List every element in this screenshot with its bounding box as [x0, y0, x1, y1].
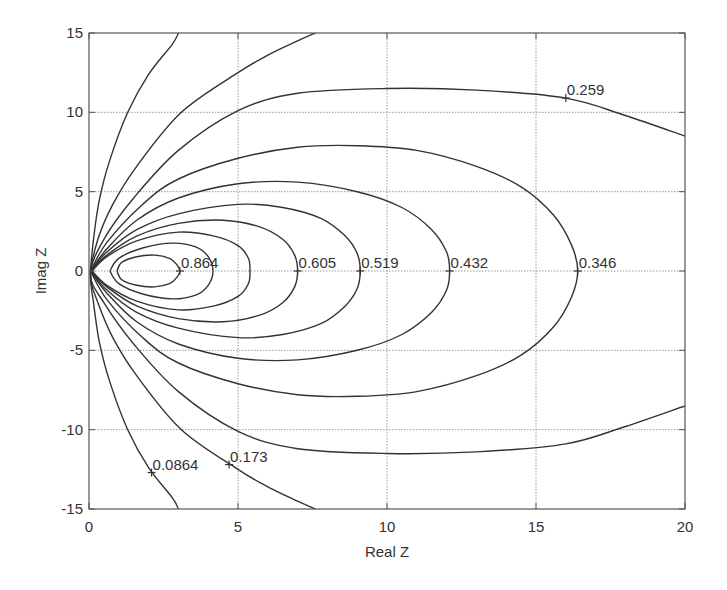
- x-tick-label: 0: [85, 518, 93, 535]
- contour-label: 0.605: [299, 254, 337, 271]
- x-axis-label: Real Z: [365, 543, 409, 560]
- contour-label: 0.432: [451, 254, 489, 271]
- y-tick-label: 0: [75, 262, 83, 279]
- y-tick-label: -5: [70, 341, 83, 358]
- y-axis-label: Imag Z: [32, 248, 49, 295]
- x-tick-label: 5: [234, 518, 242, 535]
- contour-label: 0.173: [230, 448, 268, 465]
- y-tick-label: -15: [61, 500, 83, 517]
- y-tick-label: -10: [61, 421, 83, 438]
- contour-label: 0.864: [181, 254, 219, 271]
- y-tick-label: 10: [66, 103, 83, 120]
- x-tick-label: 10: [379, 518, 396, 535]
- x-tick-label: 15: [528, 518, 545, 535]
- contour-label: 0.259: [567, 81, 605, 98]
- contour-label: 0.519: [361, 254, 399, 271]
- y-tick-label: 5: [75, 183, 83, 200]
- x-tick-label: 20: [677, 518, 694, 535]
- contour-chart: 0.08640.1730.2590.3460.4320.5190.6050.86…: [0, 0, 727, 590]
- contour-label: 0.346: [579, 254, 617, 271]
- y-tick-label: 15: [66, 24, 83, 41]
- contour-label: 0.0864: [153, 456, 199, 473]
